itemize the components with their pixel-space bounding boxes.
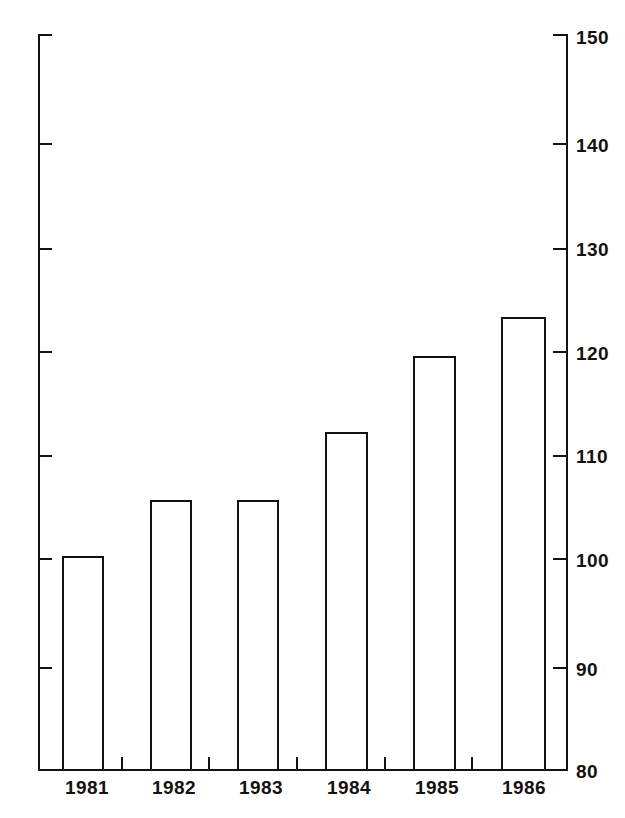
x-axis-label-1986: 1986 xyxy=(474,778,574,797)
x-axis-label-1982: 1982 xyxy=(124,778,224,797)
x-axis-label-1984: 1984 xyxy=(299,778,399,797)
bar-1981 xyxy=(62,556,104,771)
plot-area: 150 140 130 120 110 100 90 80 1981 1982 … xyxy=(0,0,625,818)
y-axis-tick-right-150 xyxy=(553,34,568,36)
y-axis-tick-right-140 xyxy=(553,143,568,145)
y-axis-label-80: 80 xyxy=(576,762,598,781)
x-axis-minor-tick-3 xyxy=(296,757,298,770)
bar-1982 xyxy=(150,500,192,771)
y-axis-tick-right-100 xyxy=(553,558,568,560)
x-axis-line xyxy=(38,769,568,771)
y-axis-tick-left-150 xyxy=(38,34,52,36)
y-axis-label-100: 100 xyxy=(576,551,609,570)
x-axis-minor-tick-4 xyxy=(384,757,386,770)
y-axis-tick-left-140 xyxy=(38,143,52,145)
y-axis-tick-right-130 xyxy=(553,248,568,250)
x-axis-label-1983: 1983 xyxy=(211,778,311,797)
y-axis-label-140: 140 xyxy=(576,136,609,155)
y-axis-tick-left-100 xyxy=(38,558,52,560)
y-axis-tick-right-110 xyxy=(553,455,568,457)
y-axis-label-110: 110 xyxy=(576,447,608,466)
y-axis-label-90: 90 xyxy=(576,660,598,679)
y-axis-tick-left-130 xyxy=(38,248,52,250)
bar-1984 xyxy=(325,432,368,771)
y-axis-label-120: 120 xyxy=(576,344,609,363)
y-axis-tick-left-120 xyxy=(38,351,52,353)
y-axis-tick-right-90 xyxy=(553,667,568,669)
x-axis-minor-tick-5 xyxy=(471,757,473,770)
x-axis-label-1981: 1981 xyxy=(37,778,137,797)
y-axis-tick-left-90 xyxy=(38,667,52,669)
x-axis-minor-tick-2 xyxy=(208,757,210,770)
bar-1986 xyxy=(501,317,546,771)
bar-1985 xyxy=(413,356,456,771)
x-axis-minor-tick-1 xyxy=(121,757,123,770)
y-axis-tick-left-110 xyxy=(38,455,52,457)
bar-chart: 150 140 130 120 110 100 90 80 1981 1982 … xyxy=(0,0,625,818)
y-axis-tick-right-120 xyxy=(553,351,568,353)
y-axis-label-150: 150 xyxy=(576,28,609,47)
y-axis-label-130: 130 xyxy=(576,240,609,259)
bar-1983 xyxy=(237,500,279,771)
x-axis-label-1985: 1985 xyxy=(387,778,487,797)
